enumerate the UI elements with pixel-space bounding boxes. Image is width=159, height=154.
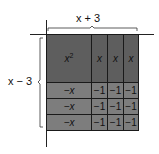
tile-neg-one: −1 [123,98,139,115]
tile-neg-one: −1 [91,98,108,115]
x-squared-text: x2 [65,52,74,64]
tile-neg-one: −1 [91,114,108,131]
tile-neg-x: −x [46,114,92,131]
top-label-text: x + 3 [76,12,100,24]
left-dimension-label: x − 3 [8,75,32,87]
tile-x: x [107,34,124,83]
tile-x: x [123,34,139,83]
tile-x: x [91,34,108,83]
tile-neg-one: −1 [107,82,124,99]
tile-neg-one: −1 [107,98,124,115]
tile-neg-x: −x [46,98,92,115]
left-label-text: x − 3 [8,75,32,87]
tile-neg-one: −1 [123,82,139,99]
tile-neg-one: −1 [107,114,124,131]
tile-x-squared: x2 [46,34,92,83]
top-dimension-label: x + 3 [76,12,100,24]
tile-neg-x: −x [46,82,92,99]
tile-neg-one: −1 [123,114,139,131]
tile-neg-one: −1 [91,82,108,99]
